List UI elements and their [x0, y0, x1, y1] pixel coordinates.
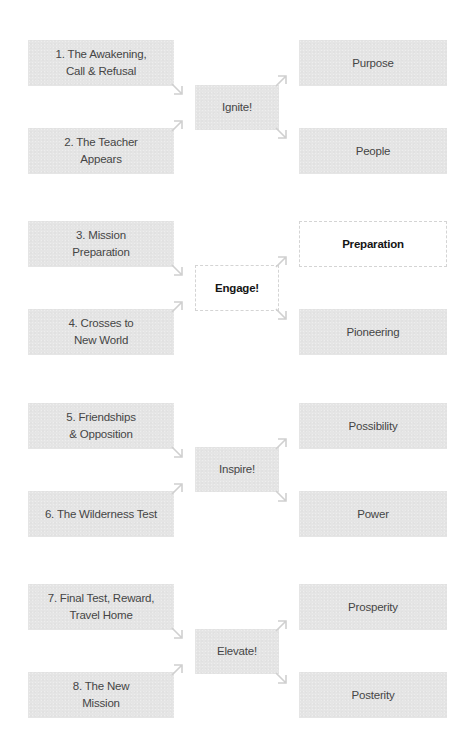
center-inspire-box: Inspire! — [195, 447, 279, 492]
center-inspire-label: Inspire! — [219, 461, 255, 478]
arrow-down-right-icon — [274, 126, 288, 140]
arrow-up-right-icon — [274, 619, 288, 633]
outcome-purpose-label: Purpose — [352, 55, 393, 72]
stage-5-label: 5. Friendships & Opposition — [66, 409, 135, 443]
stage-2-box: 2. The Teacher Appears — [28, 128, 174, 174]
center-ignite-box: Ignite! — [195, 85, 279, 130]
stage-7-label: 7. Final Test, Reward, Travel Home — [48, 590, 155, 624]
outcome-possibility-label: Possibility — [349, 418, 398, 435]
stage-6-label: 6. The Wilderness Test — [45, 506, 157, 523]
stage-8-label: 8. The New Mission — [73, 678, 130, 712]
arrow-down-right-icon — [274, 489, 288, 503]
outcome-preparation-box: Preparation — [299, 221, 447, 267]
arrow-up-right-icon — [170, 119, 184, 133]
stage-5-box: 5. Friendships & Opposition — [28, 403, 174, 449]
arrow-up-right-icon — [170, 300, 184, 314]
arrow-down-right-icon — [170, 82, 184, 96]
stage-1-label: 1. The Awakening, Call & Refusal — [56, 46, 147, 80]
outcome-prosperity-box: Prosperity — [299, 584, 447, 630]
page-number-fragment — [228, 746, 244, 754]
arrow-down-right-icon — [170, 626, 184, 640]
stage-3-box: 3. Mission Preparation — [28, 221, 174, 267]
arrow-down-right-icon — [274, 671, 288, 685]
outcome-power-box: Power — [299, 491, 447, 537]
outcome-posterity-box: Posterity — [299, 672, 447, 718]
outcome-pioneering-label: Pioneering — [347, 324, 400, 341]
stage-2-label: 2. The Teacher Appears — [64, 134, 138, 168]
center-engage-label: Engage! — [215, 280, 259, 297]
arrow-down-right-icon — [170, 263, 184, 277]
center-elevate-box: Elevate! — [195, 629, 279, 674]
outcome-people-label: People — [356, 143, 391, 160]
arrow-up-right-icon — [274, 255, 288, 269]
center-ignite-label: Ignite! — [222, 99, 252, 116]
stage-3-label: 3. Mission Preparation — [72, 227, 129, 261]
outcome-prosperity-label: Prosperity — [348, 599, 398, 616]
arrow-up-right-icon — [170, 663, 184, 677]
stage-4-label: 4. Crosses to New World — [68, 315, 133, 349]
stage-8-box: 8. The New Mission — [28, 672, 174, 718]
outcome-pioneering-box: Pioneering — [299, 309, 447, 355]
arrow-up-right-icon — [170, 482, 184, 496]
outcome-posterity-label: Posterity — [352, 687, 395, 704]
outcome-preparation-label: Preparation — [342, 236, 404, 253]
outcome-power-label: Power — [357, 506, 389, 523]
stage-7-box: 7. Final Test, Reward, Travel Home — [28, 584, 174, 630]
stage-4-box: 4. Crosses to New World — [28, 309, 174, 355]
outcome-possibility-box: Possibility — [299, 403, 447, 449]
arrow-up-right-icon — [274, 437, 288, 451]
center-elevate-label: Elevate! — [217, 643, 257, 660]
stage-1-box: 1. The Awakening, Call & Refusal — [28, 40, 174, 86]
arrow-down-right-icon — [170, 445, 184, 459]
outcome-purpose-box: Purpose — [299, 40, 447, 86]
center-engage-box: Engage! — [195, 265, 279, 311]
arrow-up-right-icon — [274, 74, 288, 88]
stage-6-box: 6. The Wilderness Test — [28, 491, 174, 537]
arrow-down-right-icon — [274, 307, 288, 321]
outcome-people-box: People — [299, 128, 447, 174]
